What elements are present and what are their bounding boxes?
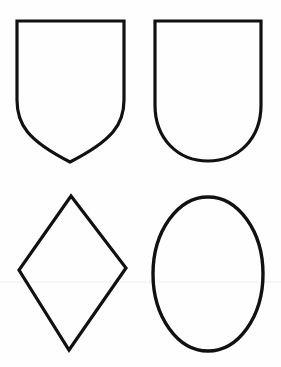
pointed-shield-shape (17, 21, 124, 162)
shapes-svg (0, 0, 281, 367)
lozenge-shape (19, 196, 126, 350)
oval-shape (153, 197, 263, 351)
shield-shapes-figure (0, 0, 281, 367)
rounded-shield-shape (155, 21, 261, 161)
